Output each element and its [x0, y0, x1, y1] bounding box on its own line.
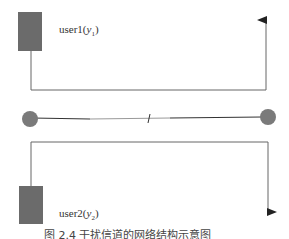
figure-caption: 图 2.4 干扰信道的网络结构示意图: [44, 226, 212, 239]
user1-label: user1(y1): [59, 23, 99, 38]
node-right: [260, 109, 276, 125]
node-left: [22, 111, 38, 127]
user2-label: user2(y2): [59, 207, 99, 222]
channel-line-mid: [90, 118, 170, 119]
channel-line-right: [170, 117, 262, 118]
user2-signal-path: [31, 142, 268, 212]
user1-block: [18, 12, 42, 51]
channel-line-left: [32, 118, 90, 119]
diagram-canvas: [0, 0, 289, 239]
user2-block: [19, 186, 43, 224]
